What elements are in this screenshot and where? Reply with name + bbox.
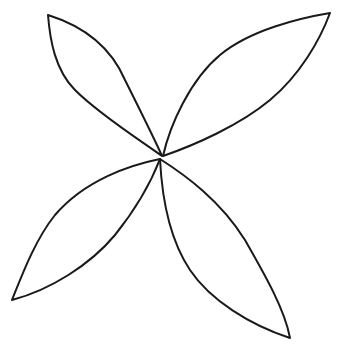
petal-top-right xyxy=(163,13,330,156)
pinwheel-drawing xyxy=(0,0,340,352)
petal-bottom-right xyxy=(160,159,290,338)
petal-bottom-left xyxy=(12,159,160,300)
petal-top-left xyxy=(48,15,162,156)
